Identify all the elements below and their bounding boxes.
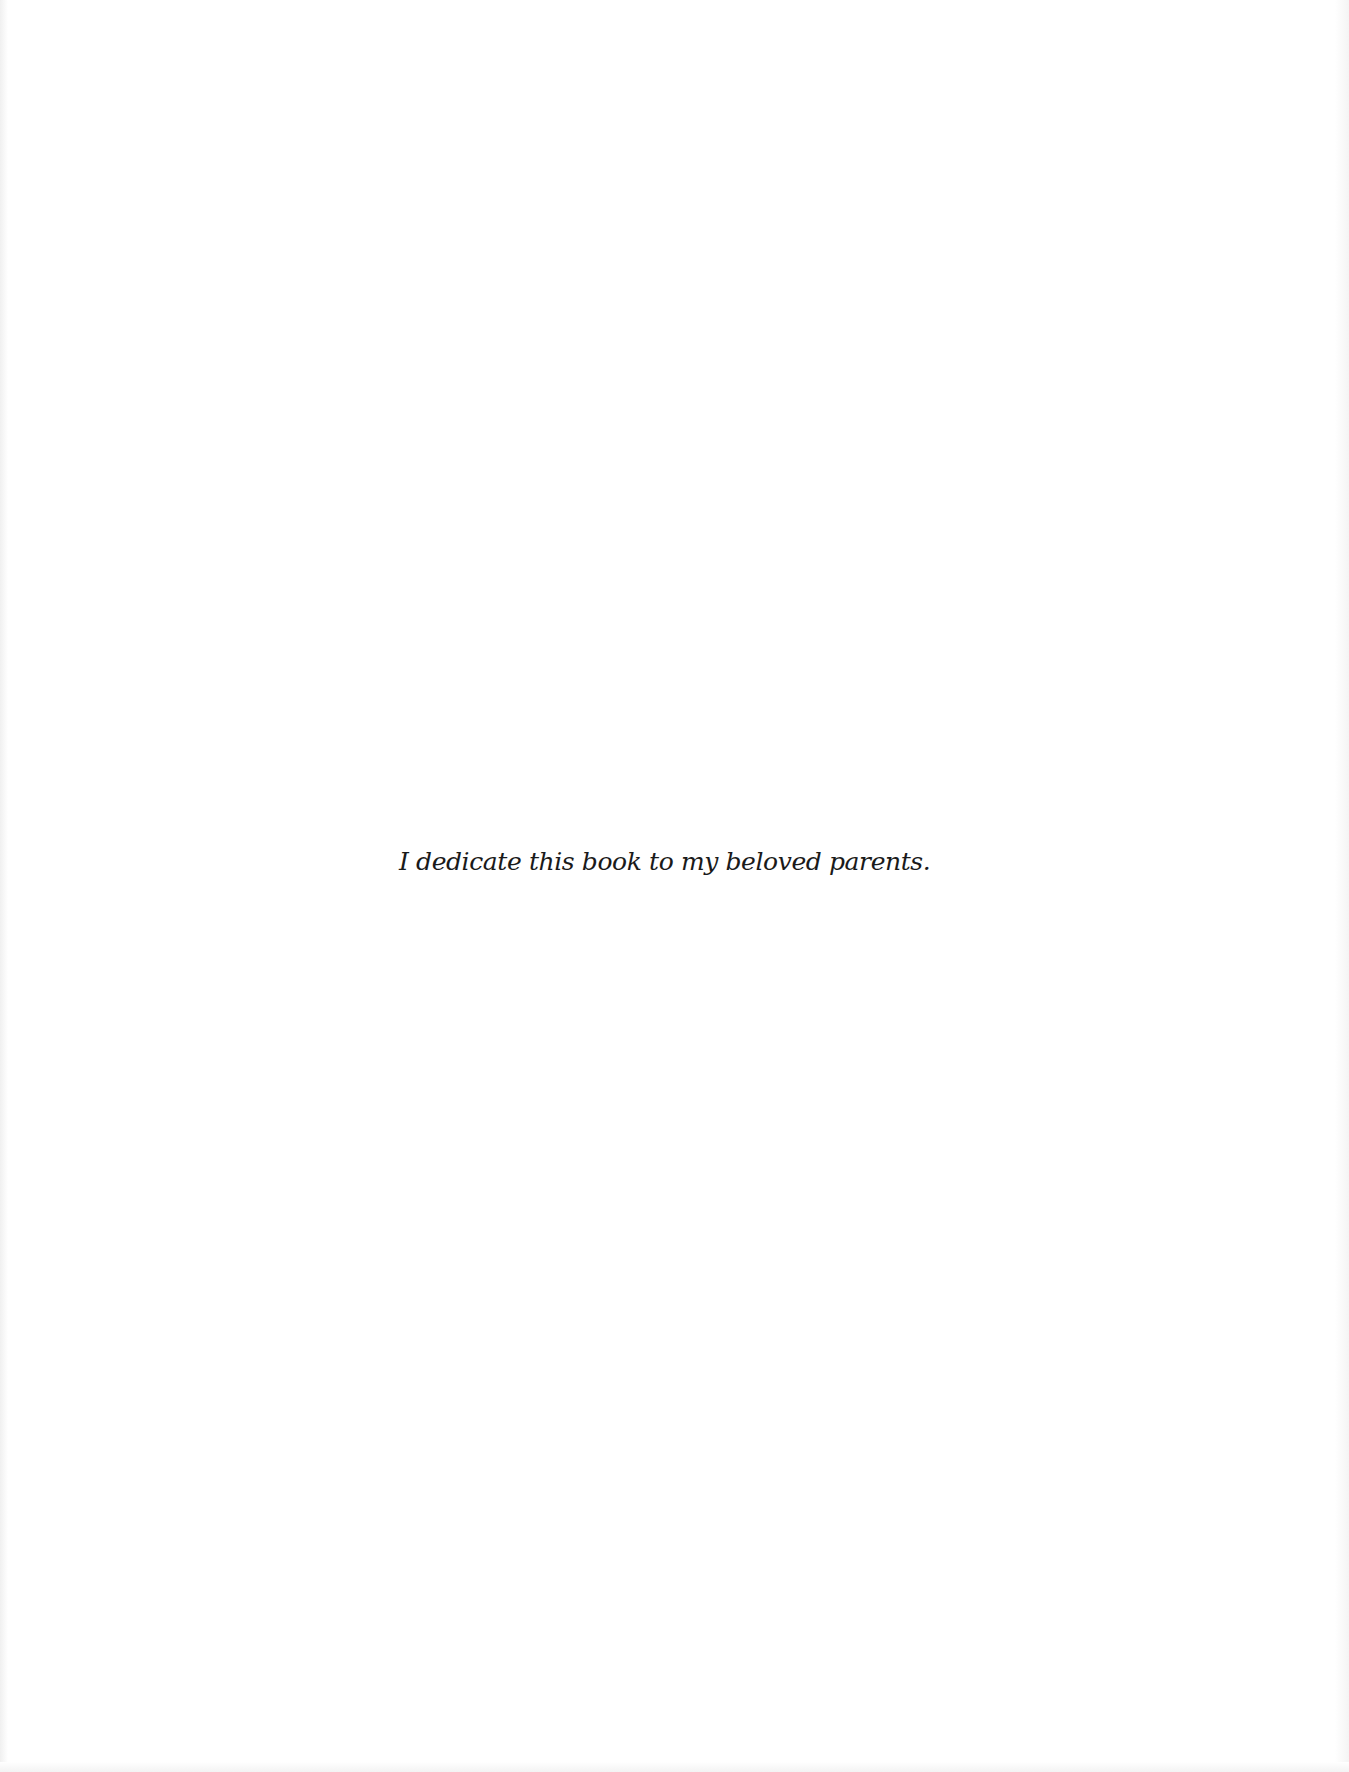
scan-edge-right [1335,0,1349,1772]
scan-edge-bottom [0,1762,1349,1772]
dedication-text: I dedicate this book to my beloved paren… [399,844,879,880]
scan-edge-left [0,0,8,1772]
book-page: I dedicate this book to my beloved paren… [0,0,1349,1772]
